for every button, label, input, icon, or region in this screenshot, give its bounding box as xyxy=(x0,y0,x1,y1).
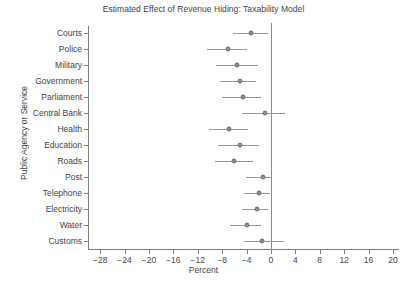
y-tick xyxy=(84,177,88,178)
data-point-marker xyxy=(235,63,240,68)
x-tick xyxy=(271,250,272,254)
x-tick xyxy=(149,250,150,254)
confidence-interval-bar xyxy=(246,177,272,178)
y-tick-label-customs: Customs xyxy=(48,236,82,246)
data-point-marker xyxy=(237,79,242,84)
y-tick-label-water: Water xyxy=(60,220,82,230)
y-tick-label-police: Police xyxy=(59,44,82,54)
y-tick xyxy=(84,193,88,194)
y-tick xyxy=(84,97,88,98)
y-axis-line xyxy=(88,26,89,250)
x-tick xyxy=(125,250,126,254)
x-tick-label: 20 xyxy=(378,255,407,265)
x-tick xyxy=(198,250,199,254)
data-point-marker xyxy=(237,143,242,148)
x-axis-line xyxy=(88,249,399,250)
data-point-marker xyxy=(261,175,266,180)
zero-reference-line xyxy=(271,23,272,250)
data-point-marker xyxy=(248,31,253,36)
y-tick-label-central-bank: Central Bank xyxy=(33,108,82,118)
y-tick-label-education: Education xyxy=(44,140,82,150)
y-tick xyxy=(84,225,88,226)
y-tick xyxy=(84,241,88,242)
data-point-marker xyxy=(259,239,264,244)
x-tick xyxy=(173,250,174,254)
y-tick xyxy=(84,65,88,66)
plot-area: −28−24−20−16−12−8−4048121620 CourtsPolic… xyxy=(88,26,399,250)
y-tick xyxy=(84,209,88,210)
y-tick-label-government: Government xyxy=(35,76,82,86)
y-tick-label-telephone: Telephone xyxy=(43,188,82,198)
y-tick xyxy=(84,129,88,130)
y-tick-label-courts: Courts xyxy=(57,28,82,38)
x-tick xyxy=(100,250,101,254)
y-tick xyxy=(84,33,88,34)
y-tick-label-military: Military xyxy=(55,60,82,70)
chart-title: Estimated Effect of Revenue Hiding: Taxa… xyxy=(0,4,407,14)
y-tick-label-electricity: Electricity xyxy=(46,204,82,214)
x-tick xyxy=(247,250,248,254)
x-tick xyxy=(344,250,345,254)
data-point-marker xyxy=(225,47,230,52)
y-tick-label-parliament: Parliament xyxy=(41,92,82,102)
y-axis-label: Public Agency or Service xyxy=(19,63,29,203)
y-tick-label-post: Post xyxy=(65,172,82,182)
y-tick xyxy=(84,113,88,114)
y-tick-label-roads: Roads xyxy=(57,156,82,166)
x-tick xyxy=(369,250,370,254)
data-point-marker xyxy=(240,95,245,100)
data-point-marker xyxy=(244,223,249,228)
y-tick-label-health: Health xyxy=(57,124,82,134)
estimated-effect-scatter-chart: Estimated Effect of Revenue Hiding: Taxa… xyxy=(0,0,407,289)
data-point-marker xyxy=(262,111,267,116)
x-tick xyxy=(222,250,223,254)
y-tick xyxy=(84,145,88,146)
data-point-marker xyxy=(254,207,259,212)
y-tick xyxy=(84,161,88,162)
data-point-marker xyxy=(227,127,232,132)
y-tick xyxy=(84,81,88,82)
x-tick xyxy=(393,250,394,254)
x-axis-label: Percent xyxy=(0,265,407,275)
data-point-marker xyxy=(232,159,237,164)
y-tick xyxy=(84,49,88,50)
x-tick xyxy=(295,250,296,254)
x-tick xyxy=(320,250,321,254)
data-point-marker xyxy=(256,191,261,196)
